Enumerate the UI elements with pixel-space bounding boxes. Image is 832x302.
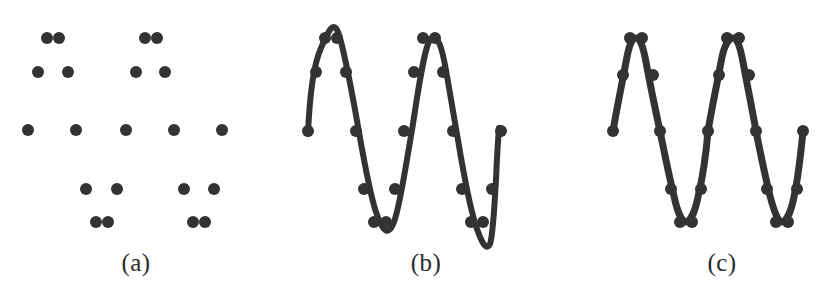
data-point <box>721 32 733 44</box>
curve-fitting-figure: (a) (b) (c) <box>0 0 832 302</box>
data-point <box>350 125 362 137</box>
data-point <box>486 183 498 195</box>
data-point <box>151 32 163 44</box>
panel-c-caption: (c) <box>584 249 832 277</box>
data-point <box>216 124 228 136</box>
data-point <box>408 66 420 78</box>
data-point <box>761 183 773 195</box>
panel-b-overfitted-curve: (b) <box>278 0 550 302</box>
data-point <box>702 125 714 137</box>
data-point <box>178 183 190 195</box>
data-point <box>159 66 171 78</box>
data-point <box>636 32 648 44</box>
data-point <box>22 124 34 136</box>
data-point <box>53 32 65 44</box>
data-point <box>797 125 809 137</box>
data-point <box>368 216 380 228</box>
data-point <box>319 32 331 44</box>
data-point <box>686 216 698 228</box>
data-point <box>187 216 199 228</box>
data-point <box>647 69 659 81</box>
data-point <box>168 124 180 136</box>
data-point <box>477 216 489 228</box>
data-point <box>70 124 82 136</box>
data-point <box>624 32 636 44</box>
data-point <box>120 124 132 136</box>
data-point <box>417 32 429 44</box>
data-point <box>437 66 449 78</box>
data-point <box>665 183 677 195</box>
data-point <box>358 183 370 195</box>
panel-a-plot <box>0 0 272 250</box>
panel-a-data-points: (a) <box>0 0 272 302</box>
data-point <box>80 183 92 195</box>
data-point <box>389 183 401 195</box>
data-point <box>495 125 507 137</box>
panel-c-plot <box>556 0 832 250</box>
data-point <box>331 32 343 44</box>
data-point <box>139 32 151 44</box>
data-point <box>62 66 74 78</box>
data-point <box>398 125 410 137</box>
panel-a-caption: (a) <box>0 249 272 277</box>
data-point <box>695 183 707 195</box>
data-point <box>674 216 686 228</box>
data-point <box>713 69 725 81</box>
data-point <box>41 32 53 44</box>
data-point <box>743 69 755 81</box>
data-point <box>90 216 102 228</box>
data-point <box>32 66 44 78</box>
data-point <box>617 69 629 81</box>
data-point <box>465 216 477 228</box>
data-point <box>310 66 322 78</box>
data-point <box>733 32 745 44</box>
data-point <box>447 125 459 137</box>
data-point <box>607 125 619 137</box>
data-point <box>429 32 441 44</box>
data-point <box>340 66 352 78</box>
data-point <box>770 216 782 228</box>
data-point <box>380 216 392 228</box>
data-point <box>199 216 211 228</box>
data-point <box>791 183 803 195</box>
data-point <box>654 125 666 137</box>
data-point <box>750 125 762 137</box>
panel-b-caption: (b) <box>290 249 562 277</box>
panel-b-plot <box>278 0 550 250</box>
data-point <box>111 183 123 195</box>
data-point <box>102 216 114 228</box>
data-point <box>208 183 220 195</box>
panel-c-smooth-fit-curve: (c) <box>556 0 832 302</box>
data-point <box>456 183 468 195</box>
data-point <box>782 216 794 228</box>
data-point <box>302 125 314 137</box>
data-point <box>130 66 142 78</box>
